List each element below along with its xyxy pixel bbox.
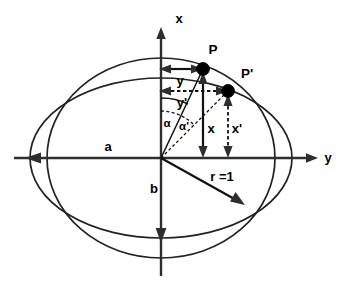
point-p-label: P [208, 42, 217, 57]
semi-axis-a-arrowhead [25, 153, 41, 164]
radius-arrowhead [230, 192, 245, 205]
x-axis-arrowhead [156, 27, 165, 39]
alpha-angle-label: α [163, 117, 170, 129]
y-measure-label: y [176, 73, 184, 88]
x-measure-arrowhead-bottom [198, 146, 207, 158]
alpha-prime-angle-label: α' [179, 120, 189, 132]
x-prime-measure-label: x' [232, 121, 242, 136]
point-p-marker [197, 63, 210, 76]
semi-axis-b-label: b [150, 181, 158, 196]
point-p-prime-marker [222, 85, 235, 98]
ellipse-diagram: x y P P' y y' x x' α α' a b r =1 [0, 0, 343, 286]
semi-axis-a-label: a [104, 139, 112, 154]
radius-label: r =1 [210, 169, 234, 184]
point-p-prime-label: P' [241, 66, 253, 81]
semi-axis-b-arrowhead [156, 228, 167, 243]
y-axis-arrowhead [306, 153, 318, 162]
x-prime-measure-arrowhead-bottom [223, 146, 232, 158]
y-axis-label: y [324, 150, 332, 165]
x-measure-label: x [207, 121, 215, 136]
radial-line-to-p-prime [161, 91, 228, 158]
diagram-canvas: x y P P' y y' x x' α α' a b r =1 [0, 0, 343, 286]
x-axis-label: x [175, 11, 183, 26]
y-prime-measure-label: y' [177, 95, 187, 110]
